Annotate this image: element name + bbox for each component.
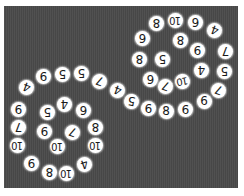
- number-tile: 7: [62, 122, 81, 141]
- number-tile: 8: [159, 104, 174, 119]
- number-tile: 10: [10, 138, 25, 153]
- number-tile: 8: [132, 52, 147, 67]
- number-tile: 8: [173, 33, 188, 48]
- number-tile: 8: [42, 165, 57, 180]
- spiral-number-board: 4955745989697109810410864591078106475768…: [4, 6, 238, 188]
- number-tile: 8: [88, 120, 103, 135]
- number-tile: 6: [143, 72, 158, 87]
- number-tile: 5: [155, 52, 170, 67]
- number-tile: 5: [74, 66, 89, 81]
- number-tile: 5: [40, 105, 55, 120]
- number-tile: 4: [57, 97, 72, 112]
- number-tile: 9: [37, 124, 52, 139]
- number-tile: 9: [178, 102, 193, 117]
- number-tile: 4: [194, 63, 209, 78]
- number-tile: 9: [24, 156, 39, 171]
- number-tile: 8: [149, 16, 164, 31]
- number-tile: 7: [11, 120, 26, 135]
- number-tile: 4: [74, 154, 93, 173]
- number-tile: 5: [122, 92, 139, 109]
- number-tile: 5: [55, 67, 70, 82]
- number-tile: 4: [204, 20, 223, 39]
- number-tile: 6: [197, 94, 212, 109]
- number-tile: 10: [168, 13, 183, 28]
- number-tile: 4: [16, 77, 35, 96]
- number-tile: 4: [107, 80, 126, 99]
- number-tile: 9: [190, 43, 205, 58]
- number-tile: 6: [188, 15, 203, 30]
- number-tile: 9: [36, 69, 51, 84]
- number-tile: 6: [76, 103, 91, 118]
- number-tile: 7: [89, 71, 108, 90]
- number-tile: 7: [155, 76, 174, 95]
- number-tile: 7: [208, 80, 227, 99]
- number-tile: 9: [11, 102, 26, 117]
- number-tile: 10: [50, 139, 65, 154]
- number-tile: 10: [173, 72, 190, 89]
- number-tile: 6: [135, 31, 150, 46]
- number-tile: 9: [141, 101, 156, 116]
- number-tile: 5: [217, 64, 232, 79]
- number-tile: 10: [59, 166, 74, 181]
- number-tile: 7: [218, 44, 233, 59]
- number-tile: 10: [88, 138, 103, 153]
